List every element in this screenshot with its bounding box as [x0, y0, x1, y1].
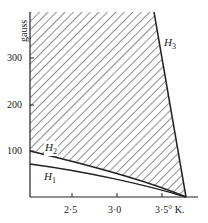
label-h1: H1 [44, 170, 56, 185]
label-h2: H2 [44, 141, 58, 156]
y-tick-label-300: 300 [7, 53, 22, 63]
x-tick-label-3.5: 3·5° K. [155, 205, 185, 215]
x-tick-label-3.0: 3·0 [108, 205, 121, 215]
y-tick-label-200: 200 [7, 100, 22, 110]
phase-diagram [0, 0, 208, 223]
y-axis-label: gauss [18, 20, 29, 42]
label-h3: H3 [164, 36, 176, 51]
x-tick-label-2.5: 2·5 [64, 205, 77, 215]
y-tick-label-100: 100 [7, 146, 22, 156]
